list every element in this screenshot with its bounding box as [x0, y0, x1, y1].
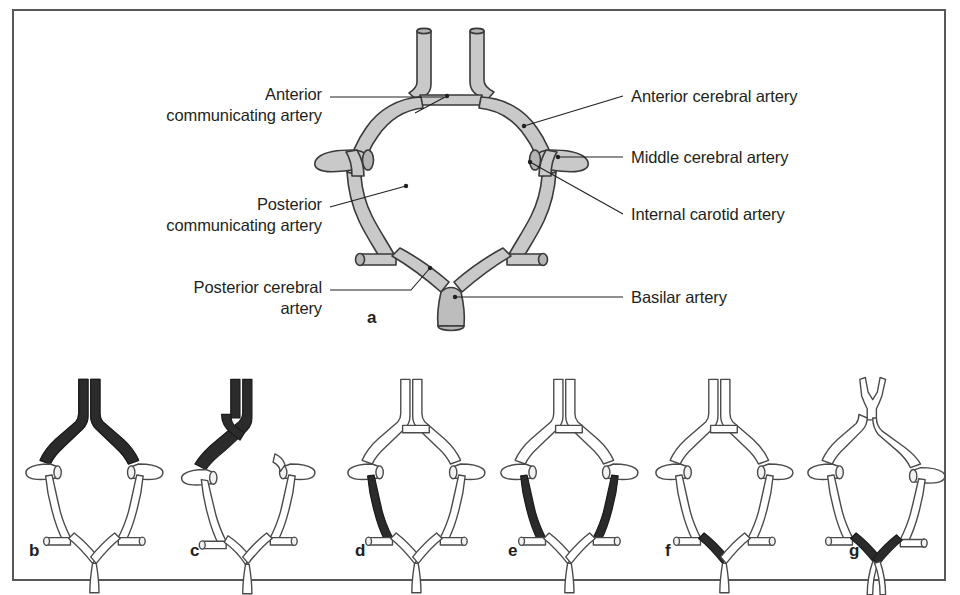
- variant-e-art: [501, 379, 638, 592]
- panel-letter-b: b: [29, 541, 39, 561]
- label-posterior-communicating-artery: Posterior communicating artery: [100, 194, 322, 236]
- variant-d-art: [348, 379, 485, 592]
- label-anterior-cerebral-artery: Anterior cerebral artery: [631, 86, 931, 107]
- variant-b-art: [26, 379, 163, 592]
- label-internal-carotid-artery: Internal carotid artery: [631, 204, 931, 225]
- panel-letter-f: f: [665, 541, 671, 561]
- label-middle-cerebral-artery: Middle cerebral artery: [631, 147, 931, 168]
- label-anterior-communicating-artery: Anterior communicating artery: [100, 84, 322, 126]
- panel-letter-a: a: [367, 308, 376, 328]
- variant-g-art: [808, 378, 945, 595]
- panel-letter-d: d: [355, 541, 365, 561]
- variant-c-art: [182, 379, 315, 593]
- label-basilar-artery: Basilar artery: [631, 287, 931, 308]
- label-posterior-cerebral-artery: Posterior cerebral artery: [100, 277, 322, 319]
- panel-letter-g: g: [849, 541, 859, 561]
- panel-letter-e: e: [508, 541, 517, 561]
- figure-stage: .vesselA{fill:#c9c9c9;stroke:#3a3a3a;str…: [0, 0, 960, 595]
- panel-letter-c: c: [190, 541, 199, 561]
- panel-a-vessels: [315, 28, 588, 330]
- variant-f-art: [656, 379, 793, 592]
